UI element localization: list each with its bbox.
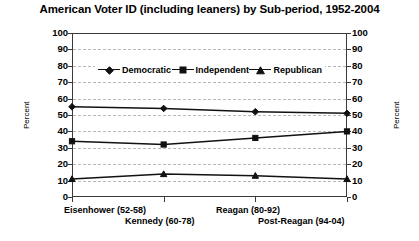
gridline [73, 164, 346, 165]
y-axis-left-title: Percent [22, 85, 31, 145]
y-tick-label-left: 20 [40, 159, 68, 168]
legend-label-independent: Independent [196, 65, 250, 75]
plot-area [72, 33, 347, 197]
y-tick-right [347, 148, 351, 149]
y-tick-left [68, 115, 72, 116]
y-tick-label-left: 70 [40, 77, 68, 86]
y-tick-label-right: 90 [352, 44, 380, 53]
y-tick-right [347, 99, 351, 100]
chart-title: American Voter ID (including leaners) by… [0, 3, 419, 15]
gridline [73, 49, 346, 50]
y-tick-left [68, 164, 72, 165]
x-tick [164, 197, 165, 202]
y-tick-label-left: 30 [40, 143, 68, 152]
y-tick-right [347, 131, 351, 132]
x-tick [255, 197, 256, 202]
y-tick-left [68, 33, 72, 34]
x-axis-label: Eisenhower (52-58) [64, 205, 146, 215]
y-tick-label-left: 50 [40, 110, 68, 119]
gridline [73, 181, 346, 182]
chart-container: American Voter ID (including leaners) by… [0, 0, 419, 241]
gridline [73, 82, 346, 83]
legend-label-democratic: Democratic [122, 65, 171, 75]
y-tick-left [68, 131, 72, 132]
y-tick-right [347, 181, 351, 182]
y-tick-label-right: 60 [352, 94, 380, 103]
legend-item-republican[interactable]: Republican [249, 65, 322, 75]
gridline [73, 131, 346, 132]
legend-item-democratic[interactable]: Democratic [98, 65, 171, 75]
y-tick-label-left: 40 [40, 126, 68, 135]
y-tick-right [347, 66, 351, 67]
y-tick-label-left: 10 [40, 176, 68, 185]
y-tick-label-right: 50 [352, 110, 380, 119]
y-tick-label-right: 100 [352, 28, 380, 37]
y-tick-label-right: 20 [352, 159, 380, 168]
y-tick-label-left: 100 [40, 28, 68, 37]
y-tick-label-left: 0 [40, 192, 68, 201]
x-axis-label: Reagan (80-92) [216, 205, 280, 215]
y-tick-label-left: 80 [40, 61, 68, 70]
y-tick-label-right: 70 [352, 77, 380, 86]
x-tick [72, 197, 73, 202]
y-tick-left [68, 99, 72, 100]
y-tick-left [68, 148, 72, 149]
diamond-marker-icon [98, 69, 120, 70]
y-tick-left [68, 181, 72, 182]
y-tick-label-right: 80 [352, 61, 380, 70]
y-tick-right [347, 82, 351, 83]
y-tick-left [68, 66, 72, 67]
y-tick-right [347, 49, 351, 50]
y-tick-left [68, 82, 72, 83]
y-tick-left [68, 49, 72, 50]
x-axis-label: Post-Reagan (94-04) [258, 216, 345, 226]
gridline [73, 115, 346, 116]
square-marker-icon [172, 69, 194, 70]
x-tick [347, 197, 348, 202]
y-tick-right [347, 33, 351, 34]
x-axis-label: Kennedy (60-78) [125, 216, 195, 226]
y-tick-right [347, 164, 351, 165]
y-axis-right-title: Percent [392, 85, 401, 145]
gridline [73, 99, 346, 100]
chart-legend: Democratic Independent Republican [95, 61, 325, 78]
y-tick-label-right: 0 [352, 192, 380, 201]
y-tick-label-left: 60 [40, 94, 68, 103]
gridline [73, 148, 346, 149]
y-tick-label-right: 30 [352, 143, 380, 152]
legend-label-republican: Republican [273, 65, 322, 75]
y-tick-label-right: 10 [352, 176, 380, 185]
y-tick-label-left: 90 [40, 44, 68, 53]
y-tick-right [347, 115, 351, 116]
triangle-marker-icon [249, 69, 271, 70]
legend-item-independent[interactable]: Independent [172, 65, 250, 75]
y-tick-label-right: 40 [352, 126, 380, 135]
